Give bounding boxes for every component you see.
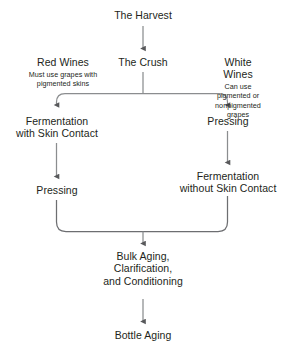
- node-bulk-aging-label-line2: Clarification,: [103, 262, 183, 274]
- node-the-harvest: The Harvest: [114, 9, 172, 21]
- node-bottle-aging-label: Bottle Aging: [115, 329, 172, 341]
- branch-label-red-wines-title: Red Wines: [29, 56, 97, 68]
- node-bulk-aging-label-line3: and Conditioning: [103, 275, 183, 287]
- edge-merge-left: [57, 200, 144, 232]
- node-fermentation-without-skin-contact-label-line1: Fermentation: [180, 170, 277, 182]
- branch-label-red-wines-subtitle-line2: pigmented skins: [29, 79, 97, 89]
- node-fermentation-with-skin-contact-label-line2: with Skin Contact: [16, 127, 98, 139]
- node-pressing-red: Pressing: [36, 184, 77, 196]
- node-fermentation-with-skin-contact: Fermentation with Skin Contact: [16, 115, 98, 140]
- node-fermentation-with-skin-contact-label-line1: Fermentation: [16, 115, 98, 127]
- edge-merge-right: [143, 196, 228, 232]
- branch-label-white-wines: White Wines Can use pigmented or nonpigm…: [215, 56, 261, 120]
- node-bottle-aging: Bottle Aging: [115, 329, 172, 341]
- winemaking-flowchart: The Harvest The Crush Fermentation with …: [0, 0, 282, 360]
- node-fermentation-without-skin-contact-label-line2: without Skin Contact: [180, 182, 277, 194]
- node-bulk-aging-label-line1: Bulk Aging,: [103, 250, 183, 262]
- node-fermentation-without-skin-contact: Fermentation without Skin Contact: [180, 170, 277, 195]
- branch-label-white-wines-subtitle-line1: Can use pigmented or: [215, 82, 261, 101]
- branch-label-white-wines-title: White Wines: [215, 56, 261, 80]
- node-the-crush-label: The Crush: [118, 56, 167, 68]
- branch-label-red-wines: Red Wines Must use grapes with pigmented…: [29, 56, 97, 89]
- edge-crush-split-left: [57, 94, 144, 106]
- node-the-harvest-label: The Harvest: [114, 9, 172, 21]
- branch-label-white-wines-subtitle-line2: nonpigmented grapes: [215, 101, 261, 120]
- node-the-crush: The Crush: [118, 56, 167, 68]
- node-bulk-aging: Bulk Aging, Clarification, and Condition…: [103, 250, 183, 287]
- branch-label-red-wines-subtitle-line1: Must use grapes with: [29, 70, 97, 80]
- node-pressing-red-label: Pressing: [36, 184, 77, 196]
